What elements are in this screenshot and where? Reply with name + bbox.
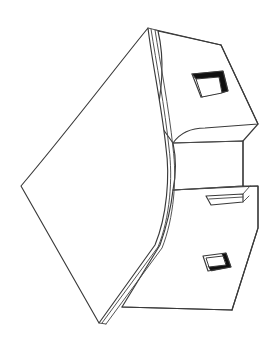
flange-tip-thickness (99, 323, 106, 324)
middle-step-face (173, 141, 243, 190)
lower-cutout-opening (206, 256, 226, 267)
technical-drawing-canvas (0, 0, 270, 354)
flange-apex-thickness (148, 28, 156, 30)
bracket-isometric-drawing (0, 0, 270, 354)
